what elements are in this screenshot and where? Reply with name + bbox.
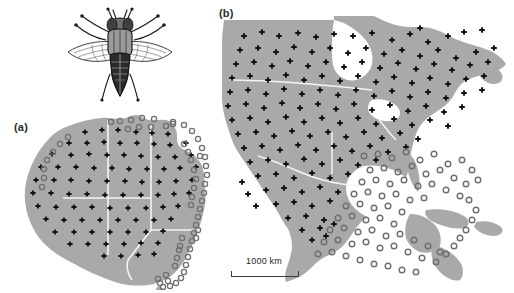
map-australia-svg [8,110,220,290]
ring-marker [202,154,207,159]
cross-marker [461,90,467,96]
ring-marker [463,227,469,233]
ring-marker [423,171,429,177]
ring-marker [371,261,377,267]
ring-marker [429,181,435,187]
north-america-landmass [222,16,506,282]
ring-marker [397,231,403,237]
ring-marker [469,167,475,173]
ring-marker [451,175,457,181]
scale-bar: 1000 km [228,256,300,282]
ring-marker [443,187,449,193]
scale-bar-rule [231,271,299,277]
ring-marker [195,136,200,141]
ring-marker [417,157,423,163]
cross-marker [491,45,497,51]
cross-marker [461,29,467,35]
ring-marker [459,157,465,163]
ring-marker [178,275,183,280]
ring-marker [383,233,389,239]
scale-bar-label: 1000 km [228,256,300,266]
ring-marker [419,255,425,261]
map-north-america-svg [214,14,514,293]
ring-marker [466,197,472,203]
fly-illustration [62,4,178,104]
ring-marker [469,217,475,223]
ring-marker [445,161,451,167]
ring-marker [413,269,419,275]
cross-marker [253,203,259,209]
map-north-america [214,14,514,293]
ring-marker [181,122,186,127]
ring-marker [363,239,369,245]
ring-marker [349,241,355,247]
ring-marker [405,249,411,255]
ring-marker [457,235,463,241]
fly-drawing-svg [62,4,178,104]
ring-marker [189,128,194,133]
ring-marker [165,278,170,283]
map-australia [8,110,220,290]
cross-marker [459,104,465,110]
cross-marker [245,191,251,197]
ring-marker [421,195,427,201]
ring-marker [473,207,479,213]
ring-marker [369,227,375,233]
ring-marker [437,167,443,173]
ring-marker [343,253,349,259]
ring-marker [181,269,186,274]
ring-marker [457,193,463,199]
ring-marker [475,177,481,183]
ring-marker [363,217,369,223]
cross-marker [445,123,451,129]
australia-landmass [25,115,206,290]
ring-marker [391,243,397,249]
ring-marker [451,243,457,249]
ring-marker [431,151,437,157]
ring-marker [377,245,383,251]
ring-marker [399,267,405,273]
cross-marker [441,109,447,115]
ring-marker [203,163,208,168]
ring-marker [204,172,209,177]
cross-marker [479,87,485,93]
ring-marker [173,280,178,285]
cross-marker [239,179,245,185]
cross-marker [415,136,421,142]
ring-marker [357,257,363,263]
ring-marker [183,262,188,267]
ring-marker [385,263,391,269]
figure-container: (a) (b) [0,0,514,293]
ring-marker [199,145,204,150]
ring-marker [197,153,202,158]
cross-marker [479,27,485,33]
ring-marker [463,181,469,187]
cross-marker [427,117,433,123]
ring-marker [355,229,361,235]
